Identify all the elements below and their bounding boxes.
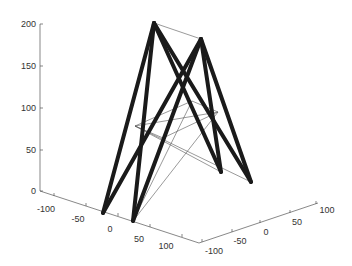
z-tick-label: 0 (31, 186, 36, 196)
z-tick-label: 100 (21, 103, 36, 113)
y-tick-label: 50 (292, 217, 302, 227)
x-tick-label: -100 (37, 204, 55, 214)
x-tick-label: 100 (158, 241, 173, 251)
x-tick-label: 0 (107, 224, 112, 234)
y-tick-label: 0 (263, 227, 268, 237)
thick-members (103, 23, 251, 221)
z-tick-label: 50 (26, 145, 36, 155)
y-tick-label: 100 (319, 205, 334, 215)
z-tick-label: 150 (21, 61, 36, 71)
z-tick-label: 200 (21, 19, 36, 29)
x-tick-label: -50 (71, 214, 84, 224)
truss-3d-plot: 200 150 100 50 0 -100 -50 0 50 100 -100 … (0, 0, 352, 266)
y-tick-label: -100 (205, 246, 223, 256)
x-axis: -100 -50 0 50 100 (37, 191, 199, 251)
x-tick-label: 50 (134, 234, 144, 244)
y-axis: -100 -50 0 50 100 (199, 201, 335, 256)
z-axis: 200 150 100 50 0 (21, 19, 43, 196)
y-tick-label: -50 (233, 236, 246, 246)
